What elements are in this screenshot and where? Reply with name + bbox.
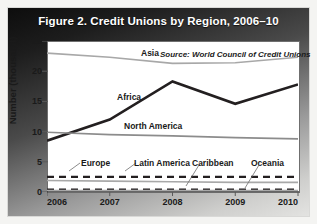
y-tick-25: 25	[24, 36, 42, 46]
label-leader-lines	[47, 41, 298, 192]
figure-title: Figure 2. Credit Unions by Region, 2006–…	[8, 10, 309, 32]
source-note: Source: World Council of Credit Unions	[160, 50, 311, 59]
series-label-latin-america: Latin America	[134, 158, 190, 168]
x-tick-2009: 2009	[225, 197, 245, 207]
y-tick-marks	[41, 41, 48, 192]
series-label-caribbean: Caribbean	[192, 158, 234, 168]
y-axis-ticks: 0510152025	[22, 41, 42, 192]
x-tick-2010: 2010	[278, 197, 298, 207]
figure-container: Figure 2. Credit Unions by Region, 2006–…	[0, 0, 317, 224]
y-tick-10: 10	[24, 127, 42, 137]
series-label-asia: Asia	[141, 48, 159, 58]
y-tick-15: 15	[24, 96, 42, 106]
y-tick-0: 0	[24, 187, 42, 197]
y-tick-5: 5	[24, 157, 42, 167]
x-tick-2008: 2008	[162, 197, 182, 207]
x-tick-2007: 2007	[100, 197, 120, 207]
series-label-africa: Africa	[117, 92, 141, 102]
series-label-north-america: North America	[124, 121, 182, 131]
x-axis-line	[47, 191, 299, 197]
x-tick-2006: 2006	[47, 197, 67, 207]
x-axis-ticks: 20062007200820092010	[47, 195, 298, 209]
series-label-europe: Europe	[81, 158, 110, 168]
y-axis-label: Number (thousand)	[7, 21, 18, 141]
series-label-oceania: Oceania	[251, 158, 284, 168]
y-tick-20: 20	[24, 66, 42, 76]
